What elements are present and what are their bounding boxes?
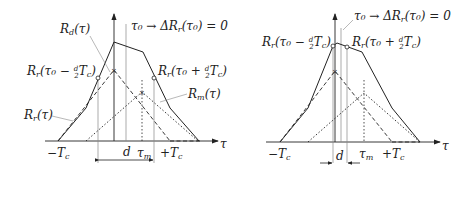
left-diagram: × × Rd(τ) τ₀ → ΔRr(τ₀) = 0 Rr(τ₀ − d2Tc)… — [23, 14, 228, 163]
right-dim-d-label: d — [336, 149, 344, 163]
left-label-Rd: Rd(τ) — [59, 22, 90, 37]
right-curve-Rd — [280, 43, 420, 142]
left-label-Rr-plus: Rr(τ₀ + d2Tc) — [157, 64, 227, 80]
left-tick-tau-m: τm — [137, 146, 152, 161]
right-label-tau0: τ₀ → ΔRr(τ₀) = 0 — [354, 9, 451, 24]
left-point-minus — [96, 76, 100, 80]
right-curve-Rr — [280, 71, 392, 142]
left-tick-minus-Tc: −Tc — [47, 146, 70, 161]
right-peak-marker: × — [332, 68, 338, 76]
right-label-Rr-minus: Rr(τ₀ − d2Tc) — [261, 35, 331, 51]
left-label-Rr-minus: Rr(τ₀ − d2Tc) — [26, 64, 96, 80]
right-curve-Rm — [308, 93, 420, 142]
left-peak-m-marker: × — [139, 89, 145, 97]
right-tick-minus-Tc: −Tc — [268, 147, 291, 162]
right-tick-tau-m: τm — [359, 147, 374, 162]
left-label-Rm: Rm(τ) — [187, 87, 221, 102]
right-axis-tau-label: τ — [442, 139, 449, 153]
right-tick-plus-Tc: +Tc — [382, 147, 405, 162]
left-label-tau0: τ₀ → ΔRr(τ₀) = 0 — [131, 19, 228, 34]
right-leader-tau0 — [343, 20, 353, 30]
right-diagram: × τ₀ → ΔRr(τ₀) = 0 Rr(τ₀ − d2Tc) Rr(τ₀ +… — [261, 9, 451, 163]
left-axis-tau-label: τ — [220, 137, 227, 151]
right-point-plus — [345, 45, 349, 49]
right-label-Rr-plus: Rr(τ₀ + d2Tc) — [351, 35, 421, 51]
left-dim-d-label: d — [123, 145, 131, 159]
left-tick-plus-Tc: +Tc — [160, 146, 183, 161]
left-leader-Rr — [52, 116, 73, 121]
left-curve-Rd — [58, 42, 199, 141]
left-label-Rr: Rr(τ) — [23, 108, 53, 123]
right-point-minus — [331, 44, 335, 48]
left-point-plus — [152, 76, 156, 80]
left-peak-marker: × — [111, 67, 117, 75]
